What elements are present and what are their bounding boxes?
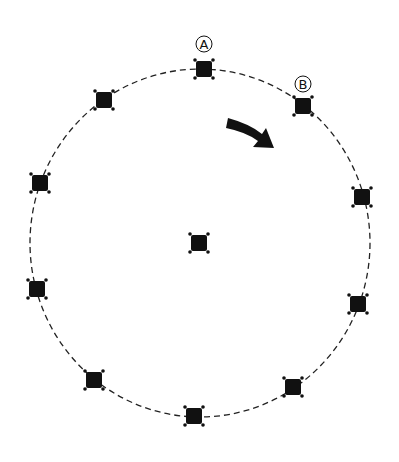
clockwise-arrow-icon [226, 118, 274, 148]
marker-m9 [29, 172, 51, 194]
marker-a [193, 58, 215, 80]
marker-m3 [351, 186, 373, 208]
marker-m10 [93, 89, 115, 111]
svg-text:A: A [200, 37, 209, 52]
marker-m8 [26, 278, 48, 300]
marker-m4 [347, 293, 369, 315]
marker-group [26, 58, 373, 427]
circled-label-b: B [295, 76, 311, 92]
marker-m6 [183, 405, 205, 427]
svg-text:B: B [299, 77, 308, 92]
circle-diagram: AB [0, 0, 399, 462]
marker-m5 [282, 376, 304, 398]
label-group: AB [196, 36, 311, 92]
circled-label-a: A [196, 36, 212, 52]
center-marker [188, 232, 210, 254]
